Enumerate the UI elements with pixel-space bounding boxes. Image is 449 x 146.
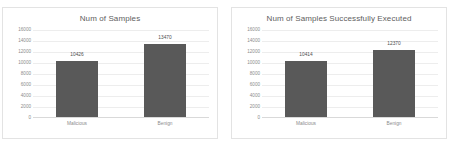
charts-page: Num of Samples 1600014000120001000080006…: [0, 0, 449, 146]
x-axis-labels: MaliciousBenign: [262, 122, 438, 127]
y-axis-tick-label: 12000: [18, 50, 31, 55]
bar-value-label: 13470: [158, 36, 171, 41]
y-axis-tick-label: 4000: [21, 94, 31, 99]
plot-area: 1042613470: [33, 30, 209, 118]
y-axis-tick-label: 6000: [21, 83, 31, 88]
plot-area-wrapper: 1600014000120001000080006000400020000 10…: [3, 30, 213, 138]
bar-value-label: 12370: [387, 42, 400, 47]
x-axis-category-label: Benign: [350, 122, 438, 127]
y-axis-tick-label: 10000: [247, 61, 260, 66]
bar-column: 12370: [350, 30, 438, 118]
y-axis-tick-label: 8000: [250, 72, 260, 77]
bar-series: 1042613470: [33, 30, 209, 118]
bar-value-label: 10414: [299, 53, 312, 58]
bar[interactable]: 10414: [285, 61, 327, 118]
x-axis-category-label: Malicious: [262, 122, 350, 127]
chart-title: Num of Samples Successfully Executed: [232, 14, 446, 23]
bar-value-label: 10426: [70, 53, 83, 58]
y-axis-tick-label: 8000: [21, 72, 31, 77]
bar-series: 1041412370: [262, 30, 438, 118]
y-axis-tick-label: 6000: [250, 83, 260, 88]
plot-area-wrapper: 1600014000120001000080006000400020000 10…: [232, 30, 442, 138]
chart-num-of-samples-successfully-executed: Num of Samples Successfully Executed 160…: [231, 7, 447, 139]
bar[interactable]: 13470: [144, 44, 186, 118]
y-axis-tick-label: 14000: [247, 39, 260, 44]
x-axis-category-label: Malicious: [33, 122, 121, 127]
bar-column: 10426: [33, 30, 121, 118]
x-axis-line: [33, 117, 209, 118]
x-axis-labels: MaliciousBenign: [33, 122, 209, 127]
y-axis-tick-label: 14000: [18, 39, 31, 44]
bar[interactable]: 10426: [56, 61, 98, 118]
chart-num-of-samples: Num of Samples 1600014000120001000080006…: [2, 7, 218, 139]
y-axis-tick-label: 2000: [21, 105, 31, 110]
bar[interactable]: 12370: [373, 50, 415, 118]
y-axis-tick-label: 4000: [250, 94, 260, 99]
y-axis-tick-label: 2000: [250, 105, 260, 110]
chart-title: Num of Samples: [3, 14, 217, 23]
y-axis-tick-label: 10000: [18, 61, 31, 66]
plot-area: 1041412370: [262, 30, 438, 118]
y-axis-labels: 1600014000120001000080006000400020000: [234, 30, 260, 118]
y-axis-tick-label: 16000: [18, 28, 31, 33]
y-axis-tick-label: 0: [257, 116, 260, 121]
y-axis-tick-label: 16000: [247, 28, 260, 33]
y-axis-tick-label: 0: [28, 116, 31, 121]
x-axis-category-label: Benign: [121, 122, 209, 127]
bar-column: 13470: [121, 30, 209, 118]
y-axis-tick-label: 12000: [247, 50, 260, 55]
y-axis-labels: 1600014000120001000080006000400020000: [5, 30, 31, 118]
bar-column: 10414: [262, 30, 350, 118]
x-axis-line: [262, 117, 438, 118]
